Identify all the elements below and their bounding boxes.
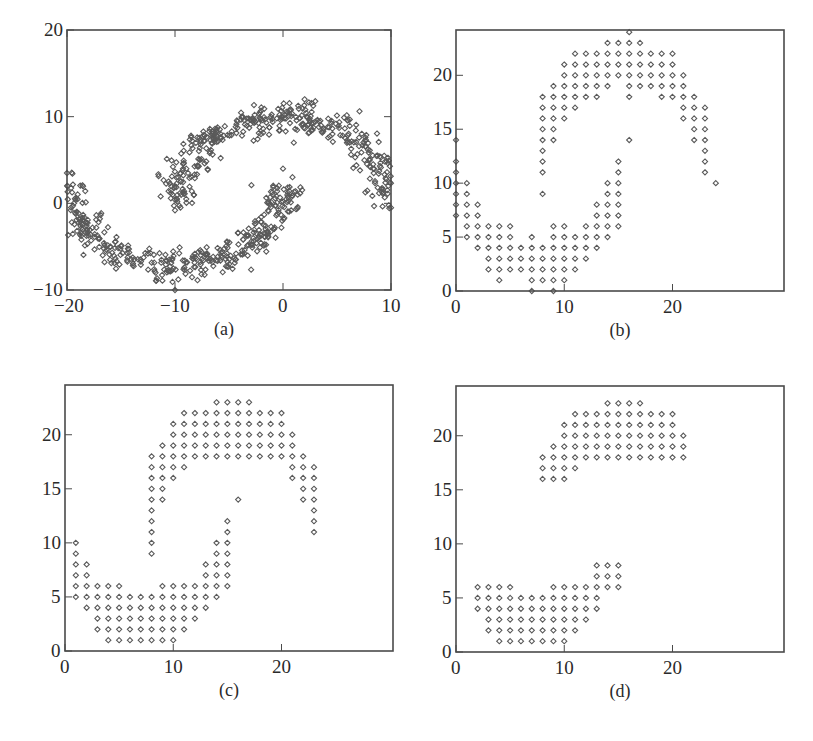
diamond-marker-icon xyxy=(347,123,352,128)
diamond-marker-icon xyxy=(246,400,251,405)
diamond-marker-icon xyxy=(497,585,502,590)
diamond-marker-icon xyxy=(177,245,182,250)
diamond-marker-icon xyxy=(214,551,219,556)
diamond-marker-icon xyxy=(225,540,230,545)
diamond-marker-icon xyxy=(540,137,545,142)
diamond-marker-icon xyxy=(648,412,653,417)
diamond-marker-icon xyxy=(203,584,208,589)
diamond-marker-icon xyxy=(637,422,642,427)
diamond-marker-icon xyxy=(371,204,376,209)
diamond-marker-icon xyxy=(562,116,567,121)
data-markers xyxy=(73,400,316,643)
diamond-marker-icon xyxy=(572,234,577,239)
diamond-marker-icon xyxy=(551,639,556,644)
diamond-marker-icon xyxy=(311,497,316,502)
diamond-marker-icon xyxy=(572,466,577,471)
diamond-marker-icon xyxy=(73,540,78,545)
y-tick-label: 5 xyxy=(442,227,452,246)
caption-d: (d) xyxy=(610,682,631,700)
diamond-marker-icon xyxy=(605,234,610,239)
diamond-marker-icon xyxy=(464,181,469,186)
diamond-marker-icon xyxy=(486,628,491,633)
y-tick-label: 15 xyxy=(433,480,452,499)
diamond-marker-icon xyxy=(279,443,284,448)
diamond-marker-icon xyxy=(540,191,545,196)
y-tick-label: 0 xyxy=(51,641,61,660)
diamond-marker-icon xyxy=(89,238,94,243)
diamond-marker-icon xyxy=(357,168,362,173)
diamond-marker-icon xyxy=(518,245,523,250)
diamond-marker-icon xyxy=(311,529,316,534)
diamond-marker-icon xyxy=(529,606,534,611)
diamond-marker-icon xyxy=(540,455,545,460)
diamond-marker-icon xyxy=(627,401,632,406)
diamond-marker-icon xyxy=(475,595,480,600)
diamond-marker-icon xyxy=(540,127,545,132)
diamond-marker-icon xyxy=(627,94,632,99)
diamond-marker-icon xyxy=(605,40,610,45)
diamond-marker-icon xyxy=(670,73,675,78)
diamond-marker-icon xyxy=(181,411,186,416)
diamond-marker-icon xyxy=(551,234,556,239)
diamond-marker-icon xyxy=(192,605,197,610)
diamond-marker-icon xyxy=(605,574,610,579)
diamond-marker-icon xyxy=(681,433,686,438)
diamond-marker-icon xyxy=(171,638,176,643)
diamond-marker-icon xyxy=(311,486,316,491)
diamond-marker-icon xyxy=(81,252,86,257)
diamond-marker-icon xyxy=(376,139,381,144)
plot-area xyxy=(67,30,391,290)
diamond-marker-icon xyxy=(279,421,284,426)
diamond-marker-icon xyxy=(214,562,219,567)
y-tick-label: 0 xyxy=(53,193,63,212)
diamond-marker-icon xyxy=(171,475,176,480)
diamond-marker-icon xyxy=(290,465,295,470)
data-markers xyxy=(64,97,393,293)
diamond-marker-icon xyxy=(551,455,556,460)
diamond-marker-icon xyxy=(562,234,567,239)
diamond-marker-icon xyxy=(146,267,151,272)
diamond-marker-icon xyxy=(160,594,165,599)
diamond-marker-icon xyxy=(189,275,194,280)
diamond-marker-icon xyxy=(464,224,469,229)
diamond-marker-icon xyxy=(160,486,165,491)
diamond-marker-icon xyxy=(562,433,567,438)
diamond-marker-icon xyxy=(605,181,610,186)
diamond-marker-icon xyxy=(497,267,502,272)
diamond-marker-icon xyxy=(160,627,165,632)
diamond-marker-icon xyxy=(659,83,664,88)
diamond-marker-icon xyxy=(486,606,491,611)
diamond-marker-icon xyxy=(659,412,664,417)
diamond-marker-icon xyxy=(203,594,208,599)
diamond-marker-icon xyxy=(572,105,577,110)
diamond-marker-icon xyxy=(627,422,632,427)
diamond-marker-icon xyxy=(551,444,556,449)
diamond-marker-icon xyxy=(486,617,491,622)
diamond-marker-icon xyxy=(311,475,316,480)
diamond-marker-icon xyxy=(616,62,621,67)
diamond-marker-icon xyxy=(236,400,241,405)
diamond-marker-icon xyxy=(330,139,335,144)
diamond-marker-icon xyxy=(149,594,154,599)
diamond-marker-icon xyxy=(562,628,567,633)
diamond-marker-icon xyxy=(605,401,610,406)
diamond-marker-icon xyxy=(508,256,513,261)
diamond-marker-icon xyxy=(225,454,230,459)
diamond-marker-icon xyxy=(127,605,132,610)
x-tick-label: 10 xyxy=(164,657,183,676)
diamond-marker-icon xyxy=(637,73,642,78)
diamond-marker-icon xyxy=(572,94,577,99)
diamond-marker-icon xyxy=(214,421,219,426)
x-tick-label: 0 xyxy=(451,658,461,677)
diamond-marker-icon xyxy=(203,573,208,578)
diamond-marker-icon xyxy=(594,94,599,99)
diamond-marker-icon xyxy=(301,465,306,470)
diamond-marker-icon xyxy=(117,605,122,610)
diamond-marker-icon xyxy=(220,270,225,275)
diamond-marker-icon xyxy=(268,454,273,459)
diamond-marker-icon xyxy=(594,422,599,427)
scatter-plot-d: 0102005101520 xyxy=(456,386,784,652)
y-tick-label: 10 xyxy=(433,173,452,192)
diamond-marker-icon xyxy=(160,443,165,448)
diamond-marker-icon xyxy=(127,638,132,643)
